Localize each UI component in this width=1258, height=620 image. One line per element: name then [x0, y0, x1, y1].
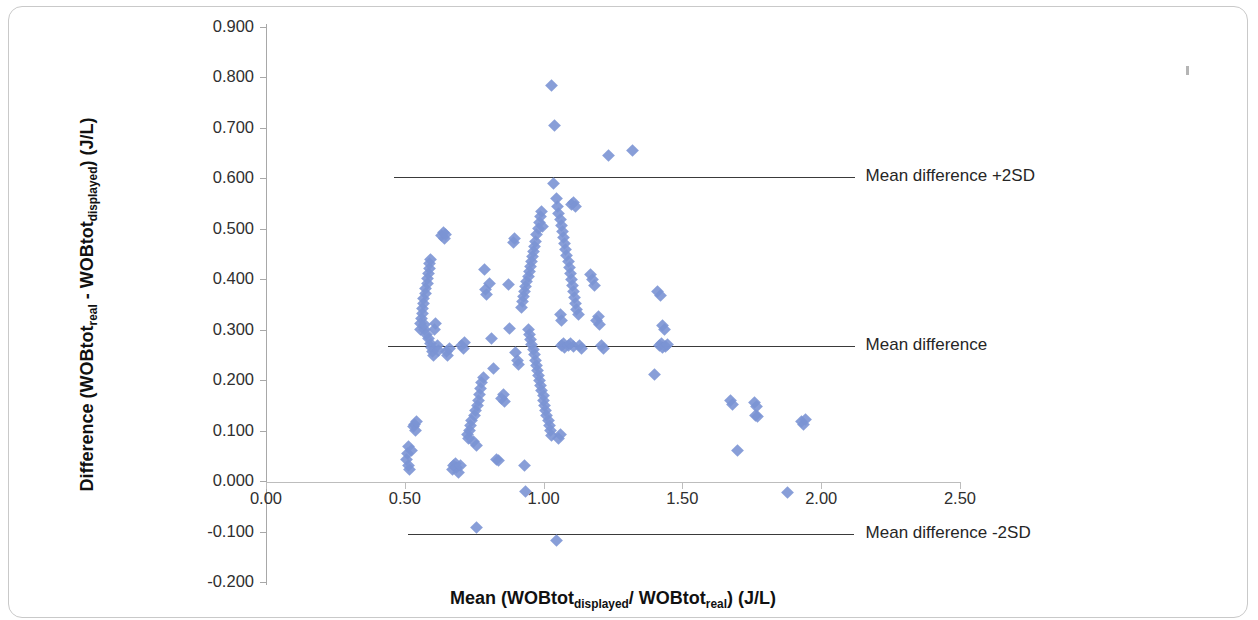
scatter-point — [648, 368, 661, 381]
x-axis-tick — [544, 482, 545, 489]
scatter-point — [732, 444, 745, 457]
x-axis-tick — [405, 482, 406, 489]
y-axis-tick — [260, 128, 267, 129]
reference-label-upper-loa: Mean difference +2SD — [866, 166, 1035, 186]
scatter-point — [548, 119, 561, 132]
reference-label-lower-loa: Mean difference -2SD — [866, 523, 1031, 543]
x-axis-tick-label: 2.50 — [920, 489, 1000, 508]
y-axis-tick-label: 0.500 — [186, 219, 254, 238]
y-axis-tick-label: 0.300 — [186, 320, 254, 339]
figure-container: 0.9000.8000.7000.6000.5000.4000.3000.200… — [0, 0, 1258, 620]
x-axis-line — [266, 482, 960, 483]
y-axis-tick-label: 0.800 — [186, 67, 254, 86]
y-axis-tick-label: 0.200 — [186, 370, 254, 389]
reference-label-mean-line: Mean difference — [866, 335, 988, 355]
x-axis-tick — [266, 482, 267, 489]
y-axis-tick — [260, 229, 267, 230]
scatter-point — [487, 362, 500, 375]
x-axis-tick-label: 1.50 — [642, 489, 722, 508]
y-axis-tick-label: 0.100 — [186, 421, 254, 440]
y-axis-tick-label: -0.100 — [186, 522, 254, 541]
scatter-point — [546, 79, 559, 92]
scatter-point — [503, 322, 516, 335]
scatter-point — [547, 177, 560, 190]
x-axis-tick-label: 0.00 — [226, 489, 306, 508]
x-axis-tick — [960, 482, 961, 489]
y-axis-tick-label: 0.600 — [186, 168, 254, 187]
reference-line-lower-loa — [408, 534, 855, 535]
y-axis-tick — [260, 279, 267, 280]
y-axis-tick — [260, 27, 267, 28]
x-axis-tick — [682, 482, 683, 489]
y-axis-tick — [260, 178, 267, 179]
reference-line-upper-loa — [394, 177, 855, 178]
scatter-point — [485, 332, 498, 345]
x-axis-tick-label: 1.00 — [504, 489, 584, 508]
y-axis-tick — [260, 582, 267, 583]
y-axis-tick-label: -0.200 — [186, 572, 254, 591]
scatter-point — [550, 534, 563, 547]
x-axis-tick-label: 0.50 — [365, 489, 445, 508]
y-axis-tick-label: 0.000 — [186, 471, 254, 490]
y-axis-tick-label: 0.900 — [186, 17, 254, 36]
y-axis-tick — [260, 431, 267, 432]
bland-altman-chart: 0.9000.8000.7000.6000.5000.4000.3000.200… — [0, 0, 1258, 620]
y-axis-tick-label: 0.400 — [186, 269, 254, 288]
y-axis-title: Difference (WOBtotreal - WOBtotdisplayed… — [77, 95, 98, 515]
scatter-point — [478, 263, 491, 276]
y-axis-tick — [260, 330, 267, 331]
scatter-point — [518, 460, 531, 473]
x-axis-tick — [821, 482, 822, 489]
y-axis-tick-label: 0.700 — [186, 118, 254, 137]
y-axis-tick — [260, 532, 267, 533]
x-axis-title: Mean (WOBtotdisplayed/ WOBtotreal) (J/L) — [266, 588, 960, 609]
scatter-point — [602, 149, 615, 162]
scatter-point — [626, 144, 639, 157]
y-axis-tick — [260, 380, 267, 381]
y-axis-tick — [260, 77, 267, 78]
scatter-point — [502, 278, 515, 291]
scatter-point — [471, 521, 484, 534]
